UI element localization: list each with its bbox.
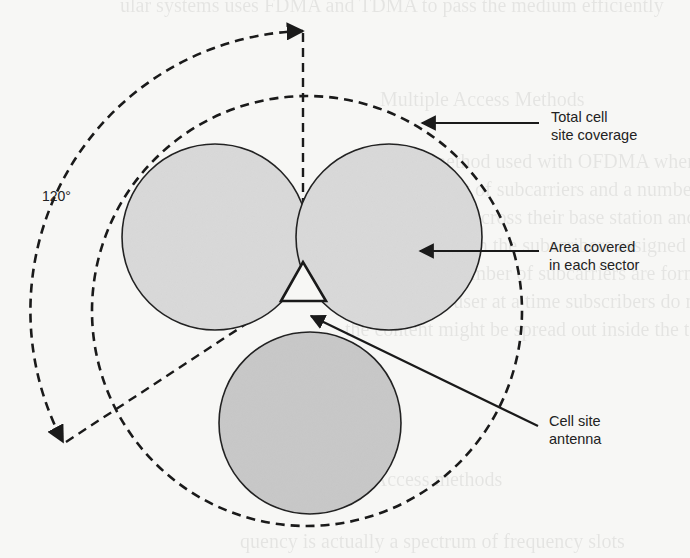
cell-site-sector-diagram [0,0,690,558]
angle-label: 120° [42,187,71,205]
antenna-label-line1: Cell site [549,412,601,430]
total-coverage-label: Total cell site coverage [551,108,637,144]
sector-area-label: Area covered in each sector [549,238,639,274]
antenna-label-line2: antenna [549,430,601,448]
sector-area-label-line1: Area covered [549,238,639,256]
sector-circle-bottom [219,332,401,514]
antenna-label: Cell site antenna [549,412,601,448]
sector-area-label-line2: in each sector [549,256,639,274]
total-coverage-label-line1: Total cell [551,108,637,126]
total-coverage-label-line2: site coverage [551,126,637,144]
